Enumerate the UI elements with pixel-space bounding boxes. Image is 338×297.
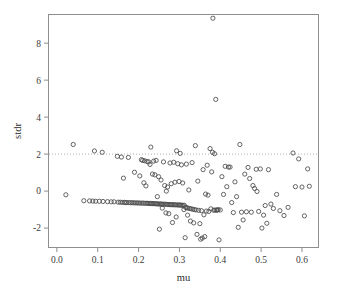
data-point: [167, 212, 171, 216]
data-point: [115, 154, 119, 158]
data-point: [155, 195, 159, 199]
data-point: [119, 155, 123, 159]
data-point: [192, 221, 196, 225]
data-point: [185, 213, 189, 217]
plot-canvas: 0.00.10.20.30.40.50.6-202468mustdr: [0, 0, 338, 297]
data-point: [190, 161, 194, 165]
data-point: [306, 167, 310, 171]
data-point: [300, 185, 304, 189]
data-point: [174, 215, 178, 219]
data-point: [297, 157, 301, 161]
data-point: [238, 142, 242, 146]
data-point: [178, 151, 182, 155]
data-point: [282, 213, 286, 217]
data-point: [196, 179, 200, 183]
data-point: [132, 170, 136, 174]
data-point: [269, 202, 273, 206]
data-point: [230, 200, 234, 204]
data-point: [220, 175, 224, 179]
scatter-plot-figure: 0.00.10.20.30.40.50.6-202468mustdr: [0, 0, 338, 297]
y-tick-label: 8: [36, 39, 41, 49]
data-point: [161, 160, 165, 164]
data-point: [210, 170, 214, 174]
data-point: [144, 184, 148, 188]
data-point: [82, 199, 86, 203]
y-tick-label: 6: [36, 76, 41, 86]
data-point: [225, 185, 229, 189]
data-point: [286, 205, 290, 209]
data-point: [184, 162, 188, 166]
data-point: [181, 181, 185, 185]
plot-frame: [49, 15, 319, 248]
data-point: [159, 178, 163, 182]
data-point: [138, 174, 142, 178]
data-point: [231, 210, 235, 214]
data-point: [221, 192, 225, 196]
data-point: [214, 97, 218, 101]
data-point: [246, 165, 250, 169]
data-point: [205, 163, 209, 167]
data-point: [164, 211, 168, 215]
data-point: [248, 176, 252, 180]
y-tick-label: 4: [36, 113, 41, 123]
data-point: [199, 209, 203, 213]
data-point: [157, 227, 161, 231]
data-point: [293, 185, 297, 189]
data-point: [261, 213, 265, 217]
data-point: [255, 189, 259, 193]
y-tick-label: 2: [36, 150, 41, 160]
data-point: [195, 232, 199, 236]
data-point: [64, 193, 68, 197]
data-point: [92, 149, 96, 153]
data-point: [235, 195, 239, 199]
data-point: [233, 180, 237, 184]
data-point: [278, 209, 282, 213]
data-point: [271, 206, 275, 210]
x-tick-label: 0.0: [51, 255, 63, 265]
data-point: [173, 180, 177, 184]
x-axis-title: mu: [177, 272, 191, 283]
data-point: [170, 220, 174, 224]
data-point: [183, 236, 187, 240]
data-point: [266, 168, 270, 172]
data-point: [201, 168, 205, 172]
x-tick-label: 0.6: [296, 255, 308, 265]
data-point: [126, 155, 130, 159]
data-point: [198, 222, 202, 226]
data-point: [121, 176, 125, 180]
data-point: [187, 188, 191, 192]
data-point: [265, 221, 269, 225]
data-point: [239, 210, 243, 214]
y-tick-label: -2: [33, 223, 41, 233]
y-tick-label: 0: [36, 186, 41, 196]
data-point: [211, 16, 215, 20]
data-point: [148, 162, 152, 166]
data-point: [193, 144, 197, 148]
data-point: [254, 167, 258, 171]
y-axis-title: stdr: [12, 123, 23, 139]
data-point: [257, 209, 261, 213]
x-tick-label: 0.4: [214, 255, 226, 265]
x-tick-label: 0.5: [255, 255, 267, 265]
x-tick-label: 0.3: [173, 255, 185, 265]
data-point: [263, 203, 267, 207]
data-point: [275, 192, 279, 196]
data-point: [154, 158, 158, 162]
data-point: [243, 172, 247, 176]
data-point: [71, 142, 75, 146]
data-points-group: [64, 16, 312, 242]
data-point: [307, 184, 311, 188]
data-point: [164, 189, 168, 193]
data-point: [244, 210, 248, 214]
data-point: [217, 238, 221, 242]
data-point: [100, 150, 104, 154]
data-point: [149, 145, 153, 149]
x-tick-label: 0.2: [133, 255, 145, 265]
data-point: [302, 214, 306, 218]
x-tick-label: 0.1: [92, 255, 104, 265]
data-point: [260, 226, 264, 230]
data-point: [241, 218, 245, 222]
data-point: [112, 200, 116, 204]
data-point: [236, 225, 240, 229]
data-point: [249, 210, 253, 214]
